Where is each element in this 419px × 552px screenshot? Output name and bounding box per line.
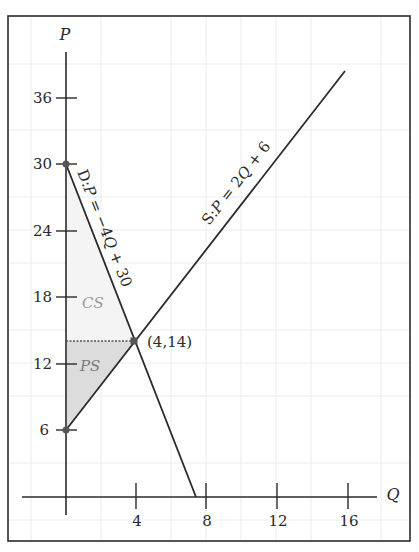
- supply-demand-chart: 6 12 18 24 30 36 4 8 12 16 P Q D:P = −4Q…: [0, 0, 419, 552]
- y-tick-label: 30: [33, 155, 52, 173]
- y-tick-label: 18: [33, 288, 52, 306]
- y-tick-label: 36: [33, 89, 52, 107]
- equilibrium-label: (4,14): [147, 333, 192, 351]
- y-tick-label: 6: [39, 421, 49, 439]
- y-tick-label: 24: [33, 222, 52, 240]
- x-tick-label: 8: [202, 512, 212, 530]
- x-tick-label: 4: [132, 512, 142, 530]
- x-tick-label: 16: [339, 512, 358, 530]
- x-axis-label: Q: [386, 485, 399, 504]
- supply-intercept-point: [63, 427, 70, 434]
- producer-surplus-label: PS: [79, 357, 100, 375]
- equilibrium-point: [131, 338, 138, 345]
- y-axis-label: P: [59, 25, 71, 44]
- y-tick-label: 12: [33, 355, 52, 373]
- consumer-surplus-label: CS: [82, 294, 104, 312]
- x-tick-label: 12: [268, 512, 287, 530]
- demand-intercept-point: [63, 161, 70, 168]
